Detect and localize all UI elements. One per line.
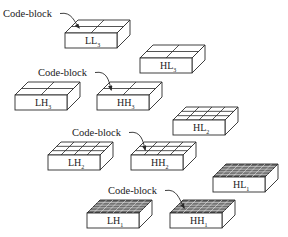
code-block-label: Code-block	[72, 127, 122, 138]
code-block-label: Code-block	[3, 8, 53, 19]
subband-lh2: LH2	[48, 142, 113, 170]
subband-lh1: LH1	[87, 200, 152, 228]
diagram-canvas: LL3HL3LH3HH3HL2LH2HH2HL1LH1HH1 Code-bloc…	[0, 0, 288, 237]
subband-hh3: HH3	[97, 82, 162, 110]
code-block-callout: Code-block	[3, 8, 79, 28]
subband-hl1: HL1	[213, 164, 278, 192]
subband-hl2: HL2	[173, 107, 238, 135]
code-block-diagram: LL3HL3LH3HH3HL2LH2HH2HL1LH1HH1 Code-bloc…	[0, 0, 288, 237]
code-block-label: Code-block	[38, 67, 88, 78]
subband-ll3: LL3	[65, 20, 130, 48]
subband-boxes: LL3HL3LH3HH3HL2LH2HH2HL1LH1HH1	[15, 20, 278, 228]
subband-lh3: LH3	[15, 82, 80, 110]
subband-hh2: HH2	[131, 142, 196, 170]
subband-hh1: HH1	[170, 200, 235, 228]
code-block-label: Code-block	[108, 185, 158, 196]
subband-hl3: HL3	[140, 45, 205, 73]
